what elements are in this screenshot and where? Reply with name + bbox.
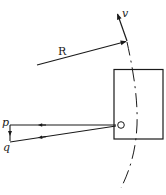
v-label: v: [122, 7, 129, 20]
origin-circle: [118, 122, 125, 129]
q-label: q: [3, 141, 10, 154]
orbit-arc: [121, 42, 137, 188]
r-label: R: [58, 45, 67, 58]
diagram-canvas: R v O p q: [0, 0, 166, 195]
q-line: [10, 126, 116, 142]
pq-arrowhead: [8, 131, 12, 136]
r-vector-arrow: [37, 42, 126, 66]
q-direction-arrow: [40, 137, 46, 138]
p-label: p: [2, 116, 9, 129]
